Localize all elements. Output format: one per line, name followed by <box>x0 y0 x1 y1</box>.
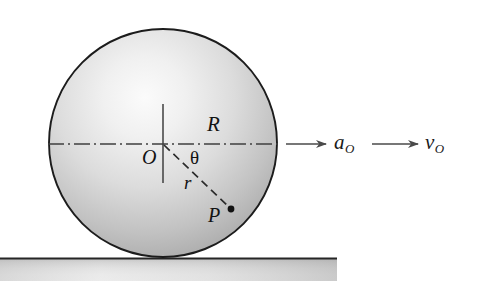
acceleration-subscript: O <box>345 141 354 156</box>
label-radius-R: R <box>207 114 220 135</box>
label-velocity-vector: vO <box>425 132 444 155</box>
figure-canvas <box>0 0 480 295</box>
label-radius-r: r <box>184 173 191 192</box>
label-angle-theta: θ <box>190 148 199 167</box>
rolling-disk-figure: R O θ r P aO vO <box>0 0 480 295</box>
point-p-marker <box>228 206 235 213</box>
ground-surface <box>0 259 337 282</box>
label-acceleration-vector: aO <box>334 132 354 155</box>
velocity-symbol: v <box>425 130 434 154</box>
acceleration-symbol: a <box>334 130 345 154</box>
label-point-P: P <box>208 205 220 225</box>
label-center-O: O <box>142 147 156 167</box>
velocity-subscript: O <box>435 141 444 156</box>
